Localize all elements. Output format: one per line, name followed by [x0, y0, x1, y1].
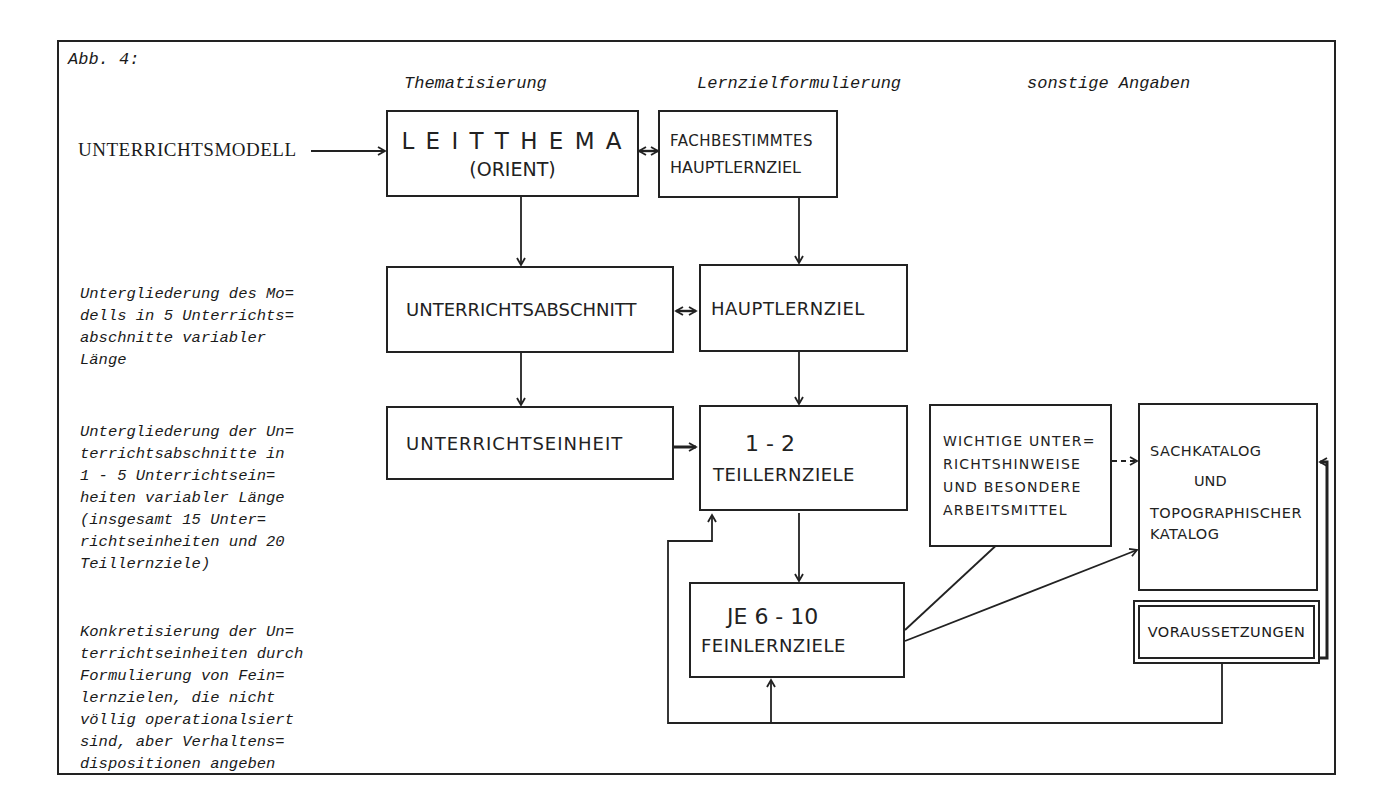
unterrichtsabschnitt-label: UNTERRICHTSABSCHNITT: [406, 299, 672, 320]
leitthema-subtitle: (ORIENT): [469, 158, 555, 180]
teillernziele-box: 1 - 2 TEILLERNZIELE: [699, 405, 908, 511]
feinlernziele-box: JE 6 - 10 FEINLERNZIELE: [689, 582, 905, 678]
unterrichtseinheit-label: UNTERRICHTSEINHEIT: [406, 433, 672, 454]
katalog-box: SACHKATALOG UND TOPOGRAPHISCHER KATALOG: [1138, 403, 1318, 591]
katalog-und-label: UND: [1150, 473, 1316, 489]
topographischer-katalog-label: TOPOGRAPHISCHER KATALOG: [1150, 503, 1316, 545]
feinlernziele-label: FEINLERNZIELE: [701, 635, 903, 656]
feinlernziele-count: JE 6 - 10: [701, 604, 903, 629]
fachbestimmtes-line1: FACHBESTIMMTES: [670, 132, 836, 150]
unterrichtseinheit-box: UNTERRICHTSEINHEIT: [386, 406, 674, 480]
unterrichtsabschnitt-box: UNTERRICHTSABSCHNITT: [386, 266, 674, 353]
unterrichtshinweise-text: WICHTIGE UNTER= RICHTSHINWEISE UND BESON…: [943, 430, 1110, 522]
teillernziele-count: 1 - 2: [713, 431, 906, 456]
hauptlernziel-label: HAUPTLERNZIEL: [711, 298, 906, 319]
voraussetzungen-box: VORAUSSETZUNGEN: [1133, 600, 1320, 664]
fachbestimmtes-hauptlernziel-box: FACHBESTIMMTES HAUPTLERNZIEL: [658, 110, 838, 198]
unterrichtshinweise-box: WICHTIGE UNTER= RICHTSHINWEISE UND BESON…: [929, 404, 1112, 547]
teillernziele-label: TEILLERNZIELE: [713, 464, 906, 485]
leitthema-box: L E I T T H E M A (ORIENT): [386, 110, 639, 197]
sachkatalog-label: SACHKATALOG: [1150, 443, 1316, 459]
fachbestimmtes-line2: HAUPTLERNZIEL: [670, 158, 836, 177]
voraussetzungen-label: VORAUSSETZUNGEN: [1148, 624, 1306, 640]
hauptlernziel-box: HAUPTLERNZIEL: [699, 264, 908, 352]
leitthema-title: L E I T T H E M A: [401, 128, 623, 154]
